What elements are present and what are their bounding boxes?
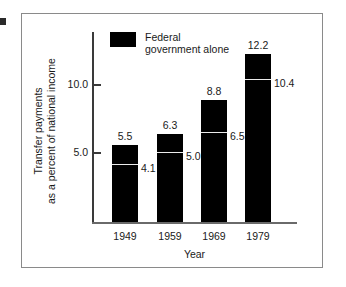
plot-area: 10.0 5.0 Transfer payments as a percent … xyxy=(0,0,346,287)
bar-federal-value-1969: 6.5 xyxy=(230,131,245,142)
y-tick-mark-10 xyxy=(92,84,101,86)
y-axis-title-line2: as a percent of national income xyxy=(45,36,58,226)
bar-divider-1979 xyxy=(245,79,271,80)
legend: Federal government alone xyxy=(110,32,229,55)
bar-1949 xyxy=(112,145,138,222)
bar-total-value-1969: 8.8 xyxy=(192,86,236,97)
federal-government-swatch xyxy=(110,32,136,47)
x-tick-label-1969: 1969 xyxy=(192,231,236,242)
y-axis-line xyxy=(92,32,94,224)
bar-total-value-1959: 6.3 xyxy=(148,120,192,131)
bar-total-value-1949: 5.5 xyxy=(103,131,147,142)
bar-federal-value-1949: 4.1 xyxy=(141,163,156,174)
bar-divider-1969 xyxy=(201,132,227,133)
bar-federal-value-1959: 5.0 xyxy=(186,151,201,162)
legend-label: Federal government alone xyxy=(145,32,229,55)
bar-1959 xyxy=(157,134,183,222)
x-axis-title: Year xyxy=(92,249,297,260)
y-axis-title-line1: Transfer payments xyxy=(32,36,45,226)
x-tick-label-1979: 1979 xyxy=(236,231,280,242)
figure-root: 10.0 5.0 Transfer payments as a percent … xyxy=(0,0,346,287)
y-tick-label-10: 10.0 xyxy=(54,79,88,90)
y-tick-label-5: 5.0 xyxy=(54,147,88,158)
bar-federal-value-1979: 10.4 xyxy=(274,78,294,89)
y-axis-title: Transfer payments as a percent of nation… xyxy=(32,36,58,226)
bar-total-value-1979: 12.2 xyxy=(236,40,280,51)
x-tick-label-1959: 1959 xyxy=(148,231,192,242)
bar-divider-1949 xyxy=(112,164,138,165)
x-tick-label-1949: 1949 xyxy=(103,231,147,242)
bar-divider-1959 xyxy=(157,152,183,153)
y-tick-mark-5 xyxy=(92,152,101,154)
legend-label-line1: Federal xyxy=(145,32,229,44)
legend-label-line2: government alone xyxy=(145,44,229,56)
bar-1969 xyxy=(201,100,227,222)
x-axis-line xyxy=(92,222,297,224)
